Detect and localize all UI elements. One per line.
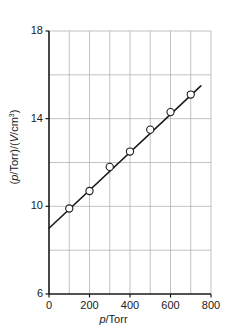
y-axis-tick-label: 6 [37,288,43,299]
x-axis-title: p/Torr [0,314,227,325]
y-axis-tick-label: 18 [31,25,43,36]
x-axis-tick-label: 200 [70,300,110,311]
data-point-marker [126,148,133,155]
y-axis-tick-label: 14 [31,113,43,124]
data-point-marker [86,187,93,194]
x-axis-tick-label: 800 [191,300,227,311]
x-axis-tick-label: 0 [29,300,69,311]
axis-ticks [46,31,212,298]
chart-figure: 6101418 0200400600800 (p/Torr)/(V/cm3) p… [0,0,227,334]
y-axis-title: (p/Torr)/(V/cm3) [4,0,24,294]
gridlines [49,31,211,294]
x-axis-tick-label: 600 [151,300,191,311]
data-point-marker [147,126,154,133]
y-axis-tick-label: 10 [31,200,43,211]
data-point-marker [106,163,113,170]
data-point-marker [167,108,174,115]
x-axis-tick-label: 400 [110,300,150,311]
plot-canvas [0,0,227,334]
data-point-marker [66,205,73,212]
y-axis-title-text: (p/Torr)/(V/cm3) [8,110,20,185]
data-point-marker [187,91,194,98]
